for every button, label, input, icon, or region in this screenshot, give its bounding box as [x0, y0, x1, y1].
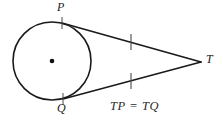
circle-center-dot — [50, 59, 55, 64]
vertex-label-q: Q — [57, 102, 66, 114]
vertex-label-t: T — [206, 53, 213, 65]
geometry-figure: P Q T TP = TQ — [0, 0, 223, 123]
tangent-segment-tq — [63, 62, 201, 99]
equation-caption: TP = TQ — [110, 100, 159, 113]
vertex-label-p: P — [57, 1, 64, 13]
